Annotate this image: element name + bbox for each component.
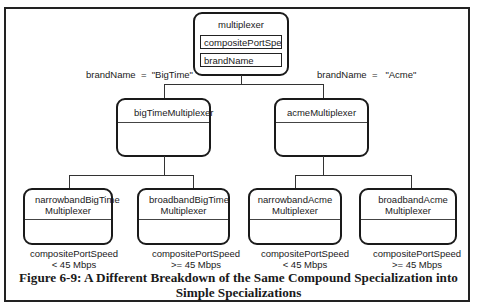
divider — [25, 219, 111, 220]
condition-value: >= 45 Mbps — [365, 259, 469, 270]
divider — [118, 122, 209, 123]
attribute-composite-port-speed: compositePortSpeed — [200, 35, 282, 49]
connector — [69, 175, 70, 188]
node-title-line1: narrowbandBigTime — [25, 194, 111, 205]
connector — [164, 84, 324, 85]
node-title-line2: Multiplexer — [361, 205, 455, 216]
node-narrowband-acme-multiplexer: narrowbandAcme Multiplexer — [248, 188, 342, 245]
condition-attribute: compositePortSpeed — [22, 248, 126, 259]
node-title-line2: Multiplexer — [25, 205, 111, 216]
node-title-line1: narrowbandAcme — [250, 194, 340, 205]
condition-value: >= 45 Mbps — [144, 259, 248, 270]
connector — [193, 175, 194, 188]
node-title: acmeMultiplexer — [276, 107, 367, 118]
connector — [69, 175, 194, 176]
node-title-line1: broadbandAcme — [361, 194, 455, 205]
connector — [295, 175, 296, 188]
connector — [411, 175, 412, 188]
condition-narrowband-bigtime: compositePortSpeed < 45 Mbps — [22, 248, 126, 270]
condition-broadband-acme: compositePortSpeed >= 45 Mbps — [365, 248, 469, 270]
node-multiplexer: multiplexer compositePortSpeed brandName — [193, 12, 289, 76]
connector — [164, 156, 165, 175]
condition-attribute: compositePortSpeed — [253, 248, 357, 259]
connector — [295, 175, 412, 176]
discriminator-bigtime: brandName = "BigTime" — [86, 69, 193, 80]
figure-caption: Figure 6-9: A Different Breakdown of the… — [6, 270, 471, 300]
condition-value: < 45 Mbps — [253, 259, 357, 270]
node-title-line2: Multiplexer — [139, 205, 228, 216]
discriminator-acme: brandName = "Acme" — [317, 69, 416, 80]
node-acme-multiplexer: acmeMultiplexer — [274, 98, 369, 157]
node-broadband-acme-multiplexer: broadbandAcme Multiplexer — [359, 188, 457, 245]
connector — [323, 84, 324, 98]
condition-narrowband-acme: compositePortSpeed < 45 Mbps — [253, 248, 357, 270]
node-title: multiplexer — [195, 19, 287, 30]
node-bigtime-multiplexer: bigTimeMultiplexer — [116, 98, 211, 157]
connector — [241, 75, 242, 84]
node-title-line2: Multiplexer — [250, 205, 340, 216]
attribute-brand-name: brandName — [200, 53, 282, 67]
divider — [250, 219, 340, 220]
divider — [139, 219, 228, 220]
divider — [361, 219, 455, 220]
connector — [164, 84, 165, 98]
caption-line-1: Figure 6-9: A Different Breakdown of the… — [6, 270, 471, 285]
condition-attribute: compositePortSpeed — [144, 248, 248, 259]
condition-value: < 45 Mbps — [22, 259, 126, 270]
condition-broadband-bigtime: compositePortSpeed >= 45 Mbps — [144, 248, 248, 270]
node-title: bigTimeMultiplexer — [118, 107, 209, 118]
connector — [323, 156, 324, 175]
node-title-line1: broadbandBigTime — [139, 194, 228, 205]
node-broadband-bigtime-multiplexer: broadbandBigTime Multiplexer — [137, 188, 230, 245]
node-narrowband-bigtime-multiplexer: narrowbandBigTime Multiplexer — [23, 188, 113, 245]
divider — [276, 122, 367, 123]
condition-attribute: compositePortSpeed — [365, 248, 469, 259]
caption-line-2: Simple Specializations — [6, 285, 471, 300]
